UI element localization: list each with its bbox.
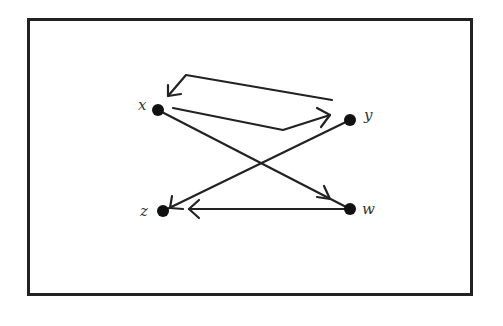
edge-x-to-y [173,108,330,130]
node-y [344,114,356,126]
node-w [344,203,356,215]
label-w: w [362,200,375,218]
graph-canvas: x y z w [0,0,503,326]
label-x: x [138,96,147,114]
node-x [152,104,164,116]
edge-w-to-z [189,200,350,218]
label-y: y [363,106,373,124]
edge-y-to-x [168,75,332,100]
label-z: z [139,202,148,220]
node-z [157,205,169,217]
